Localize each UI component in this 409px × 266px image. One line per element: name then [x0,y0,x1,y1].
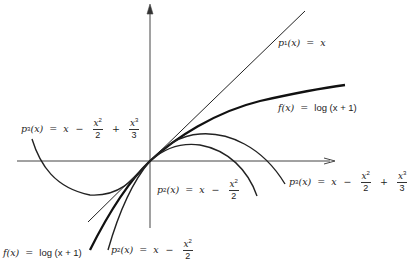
frac-denominator: 2 [363,183,368,193]
label-p3-left-equals: = [49,124,57,134]
frac-exponent: 2 [189,238,192,244]
frac-exponent: 2 [235,178,238,184]
frac-exponent: 3 [403,170,406,176]
label-f-lower-rhs: log (x + 1) [39,248,82,258]
label-p1: p1(x) = x [278,38,326,48]
label-p3-right-x: x [331,177,336,187]
label-p2-middle-minus: − [212,185,220,195]
frac-denominator: 2 [95,130,100,140]
label-p2-middle-x: x [199,185,204,195]
label-p3-left-plus: + [112,124,120,134]
label-p3-left-arg: (x) [30,124,43,134]
label-p2-lower-minus: − [166,245,174,255]
frac-denominator: 3 [132,130,137,140]
label-p1-rhs: x [320,38,325,48]
label-p2-lower-x: x [153,245,158,255]
label-f-lower-equals: = [25,248,33,258]
label-p2-middle-arg: (x) [166,185,179,195]
label-p3-left: p3(x) = x − x22 + x33 [21,117,141,140]
label-f-upper-rhs: log (x + 1) [314,103,357,113]
label-p2-lower-frac: x22 [183,238,193,261]
label-p2-middle: p2(x) = x − x22 [157,178,241,201]
label-p2-lower: p2(x) = x − x22 [111,238,195,261]
frac-denominator: 2 [185,251,190,261]
y-axis-arrow-icon [147,4,153,14]
label-f-lower-name: f(x) [3,248,19,258]
label-f-upper-equals: = [300,103,308,113]
label-p3-left-frac1: x22 [93,117,103,140]
label-p2-lower-arg: (x) [120,245,133,255]
label-p2-lower-equals: = [139,245,147,255]
frac-denominator: 3 [400,183,405,193]
label-p1-arg: (x) [287,38,300,48]
label-p1-equals: = [306,38,314,48]
frac-exponent: 3 [135,117,138,123]
frac-denominator: 2 [231,191,236,201]
frac-exponent: 2 [99,117,102,123]
label-p3-right-frac1: x22 [361,170,371,193]
label-p3-left-minus: − [76,124,84,134]
label-p3-right-plus: + [380,177,388,187]
label-p3-right-equals: = [317,177,325,187]
frac-exponent: 2 [367,170,370,176]
label-p3-right-arg: (x) [298,177,311,187]
label-p3-left-x: x [63,124,68,134]
label-p3-right: p3(x) = x − x22 + x33 [289,170,409,193]
label-p2-middle-equals: = [185,185,193,195]
label-p3-right-minus: − [344,177,352,187]
label-f-lower: f(x) = log (x + 1) [3,248,82,258]
label-p3-right-frac2: x33 [397,170,407,193]
label-f-upper: f(x) = log (x + 1) [278,103,357,113]
label-p3-left-frac2: x33 [129,117,139,140]
label-f-upper-name: f(x) [278,103,294,113]
label-p2-middle-frac: x22 [229,178,239,201]
